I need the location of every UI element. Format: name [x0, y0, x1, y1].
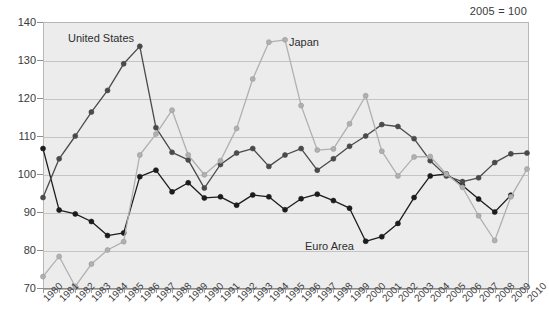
gridline	[44, 99, 528, 100]
gridline	[44, 137, 528, 138]
plot-area	[43, 22, 529, 290]
series-label-euro-area: Euro Area	[305, 240, 354, 252]
y-axis-tick-label: 100	[18, 168, 36, 180]
y-axis-tick-label: 140	[18, 16, 36, 28]
y-axis-tick-label: 110	[18, 130, 36, 142]
y-axis-tick-label: 70	[24, 282, 36, 294]
gridline	[44, 213, 528, 214]
series-label-united-states: United States	[68, 32, 134, 44]
y-axis-tick-label: 80	[24, 244, 36, 256]
gridline	[44, 175, 528, 176]
y-axis: 708090100110120130140	[0, 0, 43, 334]
y-axis-tick-label: 120	[18, 92, 36, 104]
y-axis-tick-label: 90	[24, 206, 36, 218]
gridline	[44, 251, 528, 252]
index-base-note: 2005 = 100	[470, 5, 527, 17]
gridline	[44, 61, 528, 62]
y-axis-tick-label: 130	[18, 54, 36, 66]
series-label-japan: Japan	[289, 36, 319, 48]
